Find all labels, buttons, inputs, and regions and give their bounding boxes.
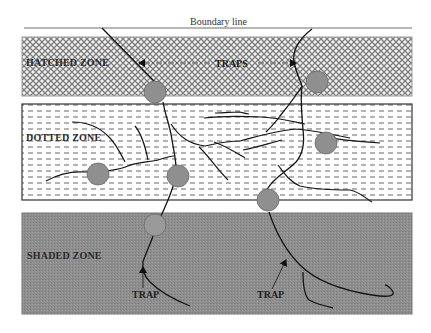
- shaded-zone-label: SHADED ZONE: [27, 250, 102, 261]
- trap-circle: [315, 132, 337, 154]
- trap-right-label: TRAP: [257, 289, 284, 300]
- boundary: Boundary line: [24, 16, 412, 28]
- trap-circle: [144, 214, 166, 236]
- boundary-label: Boundary line: [190, 16, 247, 27]
- trap-zones-diagram: Boundary line HATCHED ZONE DOTTED ZONE S…: [0, 0, 431, 333]
- shaded-zone-rect: [22, 213, 412, 314]
- trap-circle: [144, 81, 166, 103]
- trap-left-label: TRAP: [132, 289, 159, 300]
- trap-circle: [257, 189, 279, 211]
- dotted-zone-rect: [22, 104, 412, 200]
- traps-label: TRAPS: [215, 58, 248, 69]
- dotted-zone: DOTTED ZONE: [22, 104, 412, 200]
- trap-circle: [167, 165, 189, 187]
- trap-circle: [306, 71, 328, 93]
- shaded-zone: SHADED ZONE: [22, 213, 412, 314]
- hatched-zone-label: HATCHED ZONE: [26, 57, 109, 68]
- trap-circle: [87, 163, 109, 185]
- dotted-zone-label: DOTTED ZONE: [26, 132, 101, 143]
